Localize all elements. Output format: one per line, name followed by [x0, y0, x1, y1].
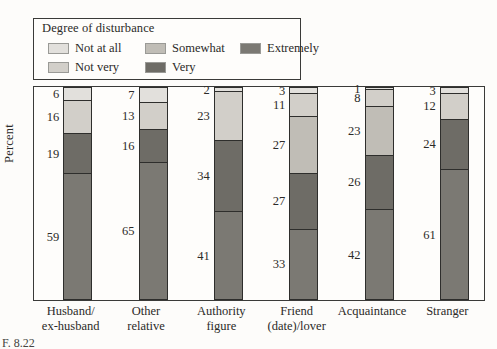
- x-axis-label-line1: Husband/: [33, 304, 108, 319]
- bar-segment-value: 19: [47, 147, 60, 160]
- bar-segment-value: 3: [430, 84, 436, 97]
- bar-column: 7131665: [139, 87, 168, 300]
- legend-item-extremely: Extremely: [240, 40, 319, 57]
- legend-label-not_very: Not very: [75, 61, 119, 74]
- legend-label-extremely: Extremely: [267, 42, 319, 55]
- x-axis-label-line1: Authority: [184, 304, 259, 319]
- legend-label-not_at_all: Not at all: [75, 42, 122, 55]
- bar-segment: 16: [64, 101, 91, 135]
- bar-segment: 24: [441, 120, 468, 171]
- bar-column: 6161959: [63, 87, 92, 300]
- y-axis-label: Percent: [2, 124, 17, 163]
- bar-segment-value: 41: [197, 249, 210, 262]
- bar-segment-value: 8: [354, 92, 360, 105]
- legend-item-somewhat: Somewhat: [145, 40, 225, 57]
- x-axis-label-line2: figure: [184, 319, 259, 334]
- bar-segment: 23: [215, 92, 242, 141]
- bar-segment-value: 34: [197, 170, 210, 183]
- plot-frame: 6161959713166522334413112727331823264231…: [33, 86, 485, 301]
- bar-segment: 7: [140, 88, 167, 103]
- bar-segment-value: 27: [273, 138, 286, 151]
- figure-caption: F. 8.22: [2, 336, 35, 348]
- bar-segment: 27: [290, 174, 317, 230]
- bar-segment-value: 42: [348, 248, 361, 261]
- bar-segment: 27: [290, 117, 317, 173]
- bar-segment: 41: [215, 212, 242, 299]
- x-axis-label-line1: Friend: [259, 304, 334, 319]
- bar-stack[interactable]: 2233441: [214, 87, 243, 300]
- bar-segment-value: 16: [47, 111, 60, 124]
- bar-segment-value: 65: [122, 225, 135, 238]
- bar-column: 311272733: [289, 87, 318, 300]
- x-axis-label-line2: (date)/lover: [259, 319, 334, 334]
- bar-segment-value: 3: [279, 84, 285, 97]
- bar-segment: 19: [64, 134, 91, 174]
- x-axis-label-line1: Other: [108, 304, 183, 319]
- bar-segment: 13: [140, 103, 167, 130]
- bar-stack[interactable]: 3122461: [440, 87, 469, 300]
- x-axis-labels: Husband/ex-husbandOtherrelativeAuthority…: [33, 304, 485, 338]
- x-axis-label-1: Husband/ex-husband: [33, 304, 108, 334]
- x-axis-label-line1: Acquaintance: [334, 304, 409, 319]
- bar-stack[interactable]: 7131665: [139, 87, 168, 300]
- bar-segment: 26: [366, 156, 393, 211]
- legend-swatch-not_very: [48, 62, 69, 73]
- bar-stack[interactable]: 18232642: [365, 87, 394, 300]
- bar-segment-value: 2: [204, 83, 210, 96]
- x-axis-label-line1: Stranger: [410, 304, 485, 319]
- bar-segment-value: 16: [122, 139, 135, 152]
- bar-segment: 16: [140, 130, 167, 163]
- bar-column: 18232642: [365, 87, 394, 300]
- bar-stack[interactable]: 6161959: [63, 87, 92, 300]
- bar-segment: 42: [366, 210, 393, 299]
- legend-item-very: Very: [145, 59, 196, 76]
- bar-segment-value: 27: [273, 195, 286, 208]
- bar-segment: 65: [140, 163, 167, 299]
- bar-segment-value: 11: [273, 99, 285, 112]
- legend-swatch-not_at_all: [48, 43, 69, 54]
- x-axis-label-5: Acquaintance: [334, 304, 409, 319]
- bar-column: 2233441: [214, 87, 243, 300]
- bar-segment: 11: [290, 94, 317, 117]
- bar-segment-value: 61: [423, 228, 436, 241]
- bar-segment-value: 6: [53, 87, 59, 100]
- bar-stack[interactable]: 311272733: [289, 87, 318, 300]
- bar-segment: 23: [366, 107, 393, 156]
- bar-segment: 12: [441, 94, 468, 119]
- bar-segment: 33: [290, 230, 317, 299]
- bar-segment-value: 23: [197, 109, 210, 122]
- bar-segment-value: 26: [348, 176, 361, 189]
- x-axis-label-line2: relative: [108, 319, 183, 334]
- x-axis-label-4: Friend(date)/lover: [259, 304, 334, 334]
- legend-label-somewhat: Somewhat: [172, 42, 225, 55]
- bar-segment: 6: [64, 88, 91, 101]
- legend-swatch-very: [145, 62, 166, 73]
- legend-item-not_at_all: Not at all: [48, 40, 122, 57]
- bar-segment: 61: [441, 170, 468, 299]
- bar-segment-value: 24: [423, 138, 436, 151]
- bar-segment-value: 23: [348, 124, 361, 137]
- legend-swatch-somewhat: [145, 43, 166, 54]
- legend-item-not_very: Not very: [48, 59, 119, 76]
- bar-segment: 8: [366, 90, 393, 107]
- bar-column: 3122461: [440, 87, 469, 300]
- bar-segment: 34: [215, 141, 242, 213]
- legend-title: Degree of disturbance: [42, 21, 154, 36]
- legend-label-very: Very: [172, 61, 196, 74]
- legend-swatch-extremely: [240, 43, 261, 54]
- bar-segment-value: 12: [423, 100, 436, 113]
- x-axis-label-2: Otherrelative: [108, 304, 183, 334]
- x-axis-label-line2: ex-husband: [33, 319, 108, 334]
- x-axis-label-6: Stranger: [410, 304, 485, 319]
- bar-segment-value: 7: [128, 88, 134, 101]
- bars-layer: 6161959713166522334413112727331823264231…: [34, 87, 484, 300]
- x-axis-label-3: Authorityfigure: [184, 304, 259, 334]
- bar-segment-value: 59: [47, 230, 60, 243]
- bar-segment: 59: [64, 174, 91, 298]
- legend-box: Degree of disturbance Not at allSomewhat…: [33, 18, 301, 80]
- bar-segment-value: 33: [273, 258, 286, 271]
- bar-segment-value: 13: [122, 109, 135, 122]
